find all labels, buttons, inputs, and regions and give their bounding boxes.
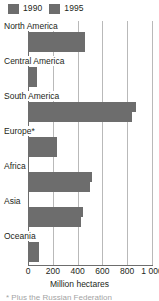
x-tick-label: 1 000 (141, 266, 159, 276)
legend-label-1995: 1995 (64, 4, 83, 14)
bar-1990 (28, 207, 83, 217)
category-label: Africa (4, 161, 28, 171)
bar-group: Africa (0, 161, 159, 196)
legend-entry-1990: 1990 (8, 4, 42, 14)
bar-1990 (28, 172, 92, 182)
bar-1995 (28, 217, 81, 227)
category-label: Europe* (4, 126, 37, 136)
category-label: Oceania (4, 231, 38, 241)
x-tick-label: 0 (26, 266, 31, 276)
x-tick-label: 200 (46, 266, 60, 276)
x-tick-label: 800 (120, 266, 134, 276)
bar-group: Asia (0, 196, 159, 231)
bar-1990 (28, 137, 57, 147)
chart-footnote: * Plus the Russian Federation (6, 293, 112, 301)
category-label: Asia (4, 196, 23, 206)
legend-swatch-1995 (49, 4, 60, 14)
legend-entry-1995: 1995 (49, 4, 83, 14)
x-axis-ticks: 02004006008001 000 (0, 266, 159, 278)
chart-legend: 1990 1995 (8, 4, 84, 14)
bar-group: Central America (0, 56, 159, 91)
bar-1990 (28, 242, 39, 252)
bars (0, 207, 159, 229)
bars (0, 172, 159, 194)
bars (0, 67, 159, 89)
bar-group: Europe* (0, 126, 159, 161)
bars (0, 137, 159, 159)
bar-group: South America (0, 91, 159, 126)
forest-area-bar-chart: 1990 1995 North AmericaCentral AmericaSo… (0, 0, 159, 301)
plot-area: North AmericaCentral AmericaSouth Americ… (0, 21, 159, 266)
legend-label-1990: 1990 (23, 4, 42, 14)
bar-1995 (28, 252, 39, 262)
category-label: North America (4, 21, 60, 31)
bar-1995 (28, 112, 132, 122)
bar-1995 (28, 42, 85, 52)
legend-swatch-1990 (8, 4, 19, 14)
bar-group: Oceania (0, 231, 159, 266)
x-tick-label: 600 (95, 266, 109, 276)
bars (0, 242, 159, 264)
bar-1990 (28, 32, 85, 42)
bar-group: North America (0, 21, 159, 56)
bar-groups: North AmericaCentral AmericaSouth Americ… (0, 21, 159, 266)
bar-1995 (28, 77, 37, 87)
bars (0, 32, 159, 54)
x-tick-label: 400 (71, 266, 85, 276)
category-label: Central America (4, 56, 66, 66)
x-axis-title: Million hectares (0, 279, 159, 289)
bars (0, 102, 159, 124)
bar-1990 (28, 102, 136, 112)
bar-1995 (28, 182, 90, 192)
bar-1995 (28, 147, 57, 157)
bar-1990 (28, 67, 37, 77)
category-label: South America (4, 91, 61, 101)
